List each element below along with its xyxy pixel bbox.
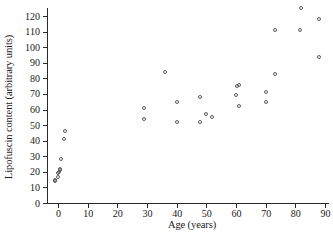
x-tick-50: 50 (206, 203, 207, 208)
y-axis-title: Lipofuscin content (arbitrary units) (2, 2, 16, 212)
data-point (142, 117, 146, 121)
data-point (273, 72, 277, 76)
y-axis-line (47, 8, 48, 204)
data-point (317, 17, 321, 21)
x-tick-label-70: 70 (261, 209, 271, 219)
y-tick-30: 30 (43, 156, 48, 157)
data-point (317, 55, 321, 59)
data-point (264, 100, 268, 104)
y-tick-label-20: 20 (30, 167, 40, 177)
x-tick-label-90: 90 (321, 209, 331, 219)
y-tick-40: 40 (43, 141, 48, 142)
y-tick-label-0: 0 (35, 199, 40, 209)
x-axis-title: Age (years) (58, 219, 326, 230)
data-point (298, 28, 302, 32)
y-tick-label-90: 90 (30, 58, 40, 68)
y-tick-120: 120 (43, 16, 48, 17)
y-tick-label-120: 120 (25, 12, 40, 22)
x-tick-label-50: 50 (202, 209, 212, 219)
data-point (175, 120, 179, 124)
x-tick-30: 30 (147, 203, 148, 208)
data-point (204, 112, 208, 116)
y-tick-label-60: 60 (30, 105, 40, 115)
scatter-plot-figure: Lipofuscin content (arbitrary units) 010… (0, 0, 333, 238)
y-tick-label-50: 50 (30, 121, 40, 131)
y-tick-20: 20 (43, 172, 48, 173)
data-point (237, 104, 241, 108)
data-point (142, 106, 146, 110)
x-tick-label-20: 20 (113, 209, 123, 219)
y-tick-90: 90 (43, 63, 48, 64)
x-tick-10: 10 (88, 203, 89, 208)
y-tick-label-40: 40 (30, 136, 40, 146)
data-point (175, 100, 179, 104)
y-tick-110: 110 (43, 32, 48, 33)
data-point (234, 93, 238, 97)
data-point (264, 90, 268, 94)
x-tick-60: 60 (236, 203, 237, 208)
y-tick-label-30: 30 (30, 152, 40, 162)
data-point (62, 137, 66, 141)
data-point (63, 129, 67, 133)
y-tick-60: 60 (43, 110, 48, 111)
data-point (210, 115, 214, 119)
y-tick-label-10: 10 (30, 183, 40, 193)
x-tick-0: 0 (58, 203, 59, 208)
data-point (198, 120, 202, 124)
y-tick-10: 10 (43, 187, 48, 188)
x-tick-70: 70 (266, 203, 267, 208)
plot-area: 0102030405060708090100110120 01020304050… (47, 8, 329, 204)
y-tick-label-80: 80 (30, 74, 40, 84)
y-tick-100: 100 (43, 47, 48, 48)
x-tick-label-60: 60 (232, 209, 242, 219)
data-point (273, 28, 277, 32)
x-tick-label-10: 10 (83, 209, 93, 219)
data-point (56, 175, 60, 179)
y-tick-0: 0 (43, 203, 48, 204)
data-point (198, 95, 202, 99)
y-tick-label-110: 110 (25, 27, 40, 37)
x-tick-label-30: 30 (143, 209, 153, 219)
data-point (59, 157, 63, 161)
x-tick-40: 40 (177, 203, 178, 208)
x-tick-label-0: 0 (56, 209, 61, 219)
data-point (163, 70, 167, 74)
x-axis-line (47, 203, 329, 204)
y-tick-label-100: 100 (25, 43, 40, 53)
y-tick-50: 50 (43, 125, 48, 126)
x-tick-label-80: 80 (291, 209, 301, 219)
x-tick-90: 90 (325, 203, 326, 208)
data-point (237, 83, 241, 87)
y-tick-80: 80 (43, 78, 48, 79)
x-tick-20: 20 (117, 203, 118, 208)
y-tick-70: 70 (43, 94, 48, 95)
x-tick-label-40: 40 (172, 209, 182, 219)
y-tick-label-70: 70 (30, 89, 40, 99)
data-point (299, 6, 303, 10)
x-tick-80: 80 (295, 203, 296, 208)
